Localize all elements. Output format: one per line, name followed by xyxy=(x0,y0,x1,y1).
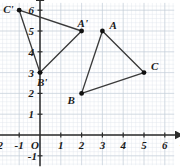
x-tick-label-neg1: -1 xyxy=(15,140,24,151)
triangle-triangle-ABC xyxy=(82,31,144,93)
point-label-B-prime: B' xyxy=(37,77,47,88)
x-tick-label-neg2: -2 xyxy=(0,140,3,151)
vertex-point-A xyxy=(100,29,105,34)
coordinate-plane-svg xyxy=(0,0,180,168)
triangle-triangle-A'B'C' xyxy=(19,10,81,72)
vertex-point-A-prime xyxy=(79,29,84,34)
vertex-point-C-prime xyxy=(17,8,22,13)
x-tick-label-2: 2 xyxy=(79,140,85,151)
x-tick-label-5: 5 xyxy=(141,140,147,151)
y-tick-label-neg1: -1 xyxy=(28,150,37,161)
y-tick-label-2: 2 xyxy=(29,88,35,99)
point-label-A: A xyxy=(109,20,116,31)
x-tick-label-3: 3 xyxy=(100,140,106,151)
axis-lines xyxy=(0,0,176,166)
point-label-B: B xyxy=(68,95,75,106)
y-tick-label-6: 6 xyxy=(29,5,35,16)
x-tick-label-4: 4 xyxy=(120,140,126,151)
vertex-point-B-prime xyxy=(38,70,43,75)
vertex-point-C xyxy=(142,70,147,75)
y-tick-label-4: 4 xyxy=(29,46,35,57)
y-tick-label-5: 5 xyxy=(29,26,35,37)
point-label-A-prime: A' xyxy=(78,18,88,29)
point-label-C: C xyxy=(151,61,158,72)
vertex-point-B xyxy=(79,91,84,96)
figure-canvas: ABCA'B'C'-2-1123456123456-1Oxy xyxy=(0,0,180,168)
x-tick-label-1: 1 xyxy=(58,140,64,151)
y-tick-label-1: 1 xyxy=(29,109,35,120)
origin-label: O xyxy=(31,140,39,151)
y-tick-label-3: 3 xyxy=(29,67,35,78)
point-label-C-prime: C' xyxy=(3,4,13,15)
x-tick-label-6: 6 xyxy=(162,140,168,151)
